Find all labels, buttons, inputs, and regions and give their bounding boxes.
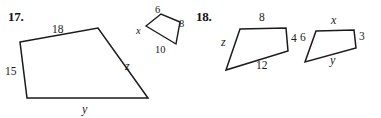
- label-side-6-b: 6: [300, 32, 306, 44]
- problem-18-right-quadrilateral: [0, 0, 381, 118]
- label-side-x-b: x: [331, 14, 336, 26]
- label-side-y-b: y: [330, 54, 335, 66]
- exercise-figure-page: 17. 18 z y 15 6 8 10 x 18. 8: [0, 0, 381, 118]
- right-quadrilateral-shape: [0, 0, 381, 118]
- problem-18: 18. 8 4 12 z x 3 y 6: [0, 0, 381, 118]
- label-side-3: 3: [359, 31, 365, 43]
